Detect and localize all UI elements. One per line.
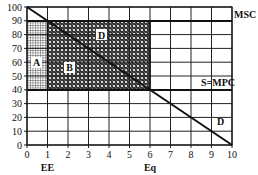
y-tick-label: 90 xyxy=(12,15,22,26)
x-tick-label: 5 xyxy=(127,149,132,160)
chart-canvas: 0102030405060708090100 012345678910 D A … xyxy=(0,0,258,175)
x-tick-label: 3 xyxy=(86,149,91,160)
y-tick-label: 60 xyxy=(12,57,22,68)
region-a xyxy=(27,21,48,90)
y-tick-label: 50 xyxy=(12,71,22,82)
demand-label-lower: D xyxy=(217,116,224,127)
y-tick-label: 0 xyxy=(17,140,22,151)
y-tick-label: 100 xyxy=(7,2,22,13)
x-tick-label: 7 xyxy=(168,149,173,160)
msc-label: MSC xyxy=(234,9,256,20)
region-a-label: A xyxy=(33,57,41,68)
x-tick-label: 9 xyxy=(209,149,214,160)
x-tick-label: 1 xyxy=(45,149,50,160)
x-axis-ticks: 012345678910 xyxy=(25,149,238,160)
x-tick-label: 6 xyxy=(148,149,153,160)
s-mpc-label: S=MPC xyxy=(201,77,235,88)
y-tick-label: 80 xyxy=(12,29,22,40)
ee-label: EE xyxy=(41,162,55,173)
x-tick-label: 2 xyxy=(66,149,71,160)
y-tick-label: 30 xyxy=(12,98,22,109)
y-axis-ticks: 0102030405060708090100 xyxy=(7,2,22,151)
x-tick-label: 4 xyxy=(107,149,112,160)
y-tick-label: 20 xyxy=(12,112,22,123)
x-tick-label: 10 xyxy=(227,149,237,160)
x-tick-label: 8 xyxy=(189,149,194,160)
y-tick-label: 70 xyxy=(12,43,22,54)
x-tick-label: 0 xyxy=(25,149,30,160)
demand-label-upper: D xyxy=(98,30,105,41)
y-tick-label: 40 xyxy=(12,84,22,95)
y-tick-label: 10 xyxy=(12,126,22,137)
region-b-label: B xyxy=(66,62,73,73)
eq-label: Eq xyxy=(144,162,157,173)
